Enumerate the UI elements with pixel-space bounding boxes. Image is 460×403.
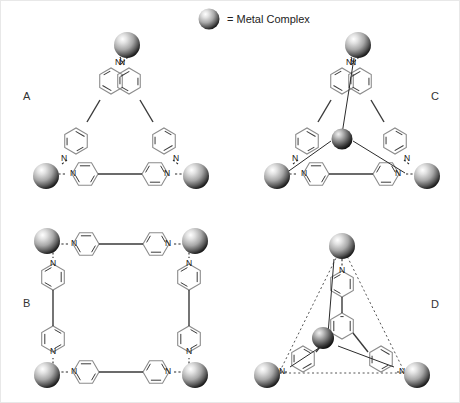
central-metal-complex-sphere bbox=[312, 327, 334, 349]
nitrogen-label: N bbox=[346, 57, 352, 67]
panel-d-label: D bbox=[431, 298, 439, 310]
coordination-bonds-a bbox=[54, 57, 186, 174]
legend-label: = Metal Complex bbox=[227, 13, 310, 25]
bipyridine-b-bottom: N N bbox=[71, 361, 171, 384]
metal-complex-sphere bbox=[264, 163, 290, 189]
bipyridine-b-left: N N bbox=[42, 258, 65, 356]
nitrogen-label: N bbox=[70, 168, 76, 178]
pyridine-arm-top: N bbox=[331, 265, 354, 313]
bipyridine-c-bottom: N N bbox=[301, 163, 401, 186]
coordination-bonds-d bbox=[275, 259, 409, 372]
nitrogen-label: N bbox=[339, 265, 345, 275]
metal-complex-sphere bbox=[254, 362, 280, 388]
figure-canvas: = Metal Complex A N N N N bbox=[0, 0, 460, 403]
metal-complex-sphere bbox=[114, 32, 140, 58]
metal-complex-sphere-icon bbox=[199, 9, 220, 30]
metal-complex-sphere bbox=[33, 163, 59, 189]
metal-complex-sphere bbox=[414, 163, 440, 189]
nitrogen-label: N bbox=[50, 346, 56, 356]
panel-b: B N N N N N N bbox=[23, 228, 208, 388]
metal-complex-sphere bbox=[404, 362, 430, 388]
nitrogen-label: N bbox=[165, 238, 171, 248]
bipyridine-a-left: N N bbox=[59, 57, 128, 163]
bipyridine-a-bottom: N N bbox=[70, 163, 170, 186]
panel-a: A N N N N N bbox=[23, 32, 209, 189]
nitrogen-label: N bbox=[404, 153, 410, 163]
nitrogen-label: N bbox=[173, 153, 179, 163]
nitrogen-label: N bbox=[71, 366, 77, 376]
metal-complex-sphere bbox=[183, 163, 209, 189]
nitrogen-label: N bbox=[186, 346, 192, 356]
metal-complex-sphere bbox=[34, 362, 60, 388]
bipyridine-a-right: N N bbox=[112, 57, 181, 163]
legend: = Metal Complex bbox=[199, 9, 311, 30]
metal-complex-sphere bbox=[182, 228, 208, 254]
metal-complex-sphere bbox=[345, 32, 371, 58]
central-metal-complex-sphere bbox=[332, 129, 353, 150]
bipyridine-c-right: N N bbox=[343, 57, 412, 163]
chemical-structure-figure: = Metal Complex A N N N N bbox=[1, 1, 460, 403]
nitrogen-label: N bbox=[61, 153, 67, 163]
central-benzene-ring bbox=[331, 313, 354, 339]
nitrogen-label: N bbox=[115, 57, 121, 67]
nitrogen-label: N bbox=[186, 258, 192, 268]
panel-d: D N N N bbox=[254, 233, 439, 388]
central-metal-bonds-c bbox=[286, 58, 405, 173]
nitrogen-label: N bbox=[165, 366, 171, 376]
bipyridine-b-right: N N bbox=[178, 258, 201, 356]
metal-complex-sphere bbox=[182, 362, 208, 388]
metal-complex-sphere bbox=[329, 233, 355, 259]
bipyridine-c-left: N N bbox=[290, 57, 359, 163]
coordination-bonds-b bbox=[53, 244, 189, 372]
panel-b-label: B bbox=[23, 297, 30, 309]
metal-complex-sphere bbox=[34, 228, 60, 254]
panel-a-label: A bbox=[23, 90, 31, 102]
nitrogen-label: N bbox=[71, 238, 77, 248]
bipyridine-b-top: N N bbox=[71, 233, 171, 256]
nitrogen-label: N bbox=[301, 168, 307, 178]
nitrogen-label: N bbox=[164, 168, 170, 178]
nitrogen-label: N bbox=[50, 258, 56, 268]
panel-c: C N N N N N N bbox=[264, 32, 440, 189]
panel-c-label: C bbox=[431, 90, 439, 102]
nitrogen-label: N bbox=[292, 153, 298, 163]
